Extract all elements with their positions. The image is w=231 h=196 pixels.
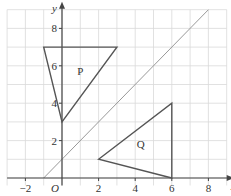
plot-canvas: −224682468OxyPQ xyxy=(0,0,231,196)
x-axis-label: x xyxy=(230,180,231,192)
y-tick-label: 8 xyxy=(52,22,58,34)
triangle-label-p: P xyxy=(77,65,83,77)
x-tick-label: 2 xyxy=(96,182,102,194)
x-tick-label: −2 xyxy=(20,182,32,194)
y-tick-label: 6 xyxy=(52,60,58,72)
x-tick-label: 4 xyxy=(132,182,138,194)
x-tick-label: 6 xyxy=(169,182,175,194)
y-axis-label: y xyxy=(51,2,57,14)
x-tick-label: 8 xyxy=(206,182,212,194)
origin-label: O xyxy=(51,182,59,194)
coordinate-diagram: −224682468OxyPQ xyxy=(0,0,231,196)
y-tick-label: 2 xyxy=(52,135,58,147)
line-y-equals-x-plus-1 xyxy=(44,10,209,178)
y-axis-arrow-icon xyxy=(59,2,65,9)
triangle-label-q: Q xyxy=(137,138,145,150)
